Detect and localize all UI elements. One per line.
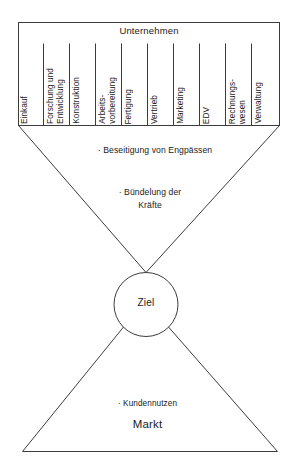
department-column-rechnungswesen: Rechnungs- wesen [228, 44, 251, 124]
department-column-edv: EDV [202, 44, 225, 124]
department-label: Rechnungs- wesen [228, 79, 250, 124]
funnel-benefit-buendelung: · Bündelung der Kräfte [75, 186, 225, 212]
department-column-forschung-und-entwicklung: Forschung und Entwicklung [46, 44, 69, 124]
department-column-marketing: Marketing [176, 44, 199, 124]
goal-label: Ziel [114, 297, 178, 308]
department-column-einkauf: Einkauf [20, 44, 43, 124]
funnel-diagram: Unternehmen Einkauf Forschung und Entwic… [0, 0, 295, 470]
market-label: Markt [0, 418, 295, 430]
department-label: Konstruktion [72, 77, 84, 124]
department-label: Fertigung [124, 89, 136, 125]
funnel-benefit-engpaesse: · Beseitigung von Engpässen [55, 144, 255, 157]
department-column-verwaltung: Verwaltung [254, 44, 277, 124]
department-label: Arbeits- vorbereitung [98, 77, 120, 124]
department-label: Einkauf [20, 96, 32, 124]
department-label: Verwaltung [254, 82, 266, 124]
department-column-vertrieb: Vertrieb [150, 44, 173, 124]
market-benefit-kundennutzen: · Kundennutzen [0, 399, 295, 408]
department-column-arbeitsvorbereitung: Arbeits- vorbereitung [98, 44, 121, 124]
market-left-edge [23, 327, 124, 452]
department-column-konstruktion: Konstruktion [72, 44, 95, 124]
company-title: Unternehmen [18, 25, 280, 36]
department-label: Vertrieb [150, 95, 162, 124]
department-label: EDV [202, 107, 214, 124]
department-label: Forschung und Entwicklung [46, 68, 68, 124]
market-right-edge [169, 327, 278, 452]
department-column-fertigung: Fertigung [124, 44, 147, 124]
department-label: Marketing [176, 87, 188, 124]
